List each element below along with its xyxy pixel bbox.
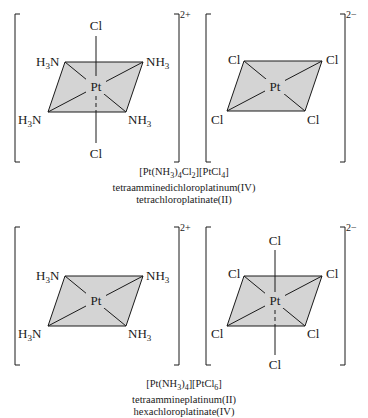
top-caption: [Pt(NH3)4Cl2][PtCl4] tetraamminedichloro… [0,166,368,206]
top-anion-eq-top-left-label: Cl [228,52,241,67]
bottom-anion-eq-bottom-left-label: Cl [211,326,224,341]
top-anion-center-label: Pt [270,79,281,94]
top-caption-formula: [Pt(NH3)4Cl2][PtCl4] [0,166,368,182]
bottom-caption-name-line2: hexachloroplatinate(IV) [0,406,368,418]
top-cation-center-label: Pt [91,79,102,94]
bottom-anion-center-label: Pt [270,293,281,308]
bottom-cation-center-label: Pt [91,293,102,308]
bottom-cation-charge: 2+ [180,222,191,233]
top-cation-axial-top-label: Cl [90,18,103,33]
top-cation-eq-bottom-right-label: NH3 [128,112,152,129]
top-anion-eq-top-right-label: Cl [326,52,339,67]
top-cation-eq-top-left-label: H3N [36,54,60,71]
top-cation-charge: 2+ [180,9,191,20]
bottom-anion-axial-bottom-label: Cl [269,357,282,372]
bottom-anion-eq-top-left-label: Cl [228,266,241,281]
bottom-cation-eq-top-right-label: NH3 [146,268,170,285]
bottom-caption-name-line1: tetraammineplatinum(II) [0,394,368,406]
complex-diagram: Cl Pt Cl H3N NH3 H3N NH3 2+ Pt Cl Cl Cl … [0,0,368,418]
top-cation-axial-bottom-label: Cl [90,146,103,161]
top-anion-charge: 2− [346,9,357,20]
bottom-caption-formula: [Pt(NH3)4][PtCl6] [0,378,368,394]
top-anion-eq-bottom-right-label: Cl [307,112,320,127]
top-caption-name-line2: tetrachloroplatinate(II) [0,194,368,206]
bottom-cation-eq-bottom-right-label: NH3 [128,326,152,343]
bottom-anion-charge: 2− [346,222,357,233]
bottom-cation-eq-bottom-left-label: H3N [18,326,42,343]
bottom-caption: [Pt(NH3)4][PtCl6] tetraammineplatinum(II… [0,378,368,418]
bottom-cation-eq-top-left-label: H3N [36,268,60,285]
top-caption-name-line1: tetraamminedichloroplatinum(IV) [0,182,368,194]
top-anion-eq-bottom-left-label: Cl [211,112,224,127]
bottom-anion-axial-top-label: Cl [269,233,282,248]
bottom-anion-eq-bottom-right-label: Cl [307,326,320,341]
top-cation-eq-bottom-left-label: H3N [18,112,42,129]
top-cation-eq-top-right-label: NH3 [146,54,170,71]
bottom-anion-eq-top-right-label: Cl [326,266,339,281]
